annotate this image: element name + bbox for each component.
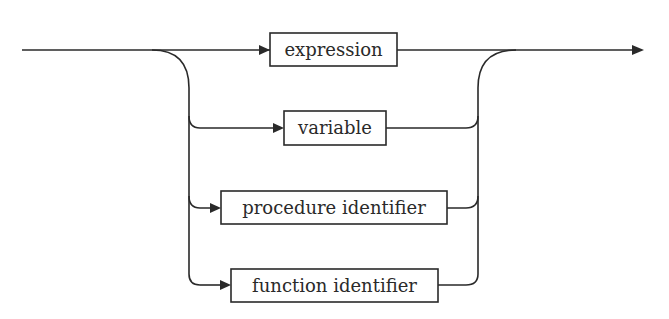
procedure-arrow-icon <box>210 203 221 213</box>
left-branch <box>152 50 200 285</box>
variable-label: variable <box>284 111 386 144</box>
procedure-exit <box>447 196 478 208</box>
right-branch <box>438 50 516 285</box>
procedure-identifier-label: procedure identifier <box>221 191 447 224</box>
expression-label: expression <box>270 33 397 66</box>
variable-entry <box>189 116 276 128</box>
exit-arrow-icon <box>632 45 644 55</box>
procedure-entry <box>189 196 213 208</box>
expression-arrow-icon <box>259 45 270 55</box>
variable-exit <box>386 116 478 128</box>
function-arrow-icon <box>220 280 231 290</box>
variable-arrow-icon <box>273 123 284 133</box>
function-identifier-label: function identifier <box>231 269 438 302</box>
